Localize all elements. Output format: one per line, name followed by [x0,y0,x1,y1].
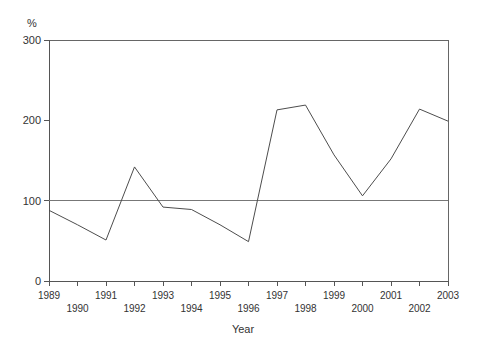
x-tick-label-1997: 1997 [266,290,289,301]
y-tick-label-200: 200 [23,114,41,126]
x-tick-label-2002: 2002 [408,303,431,314]
x-tick-label-1995: 1995 [209,290,232,301]
x-tick-label-1996: 1996 [237,303,260,314]
y-tick-label-100: 100 [23,195,41,207]
x-tick-label-2003: 2003 [437,290,460,301]
x-tick-label-1999: 1999 [323,290,346,301]
x-tick-label-1992: 1992 [123,303,146,314]
data-series-line [49,105,448,242]
x-tick-label-1993: 1993 [152,290,175,301]
x-tick-label-2000: 2000 [351,303,374,314]
x-tick-label-1998: 1998 [294,303,317,314]
x-tick-label-1994: 1994 [180,303,203,314]
line-chart: 0 100 200 300 % 1989 19 [0,0,478,350]
y-tick-label-300: 300 [23,34,41,46]
x-axis-tick-labels-upper: 1989 1991 1993 1995 1997 1999 2001 2003 [38,290,460,301]
x-tick-label-2001: 2001 [380,290,403,301]
x-tick-label-1989: 1989 [38,290,61,301]
x-axis-ticks [49,281,448,286]
x-tick-label-1990: 1990 [66,303,89,314]
y-axis-unit-label: % [27,17,37,29]
x-tick-label-1991: 1991 [95,290,118,301]
y-tick-label-0: 0 [35,275,41,287]
x-axis-tick-labels-lower: 1990 1992 1994 1996 1998 2000 2002 [66,303,431,314]
y-axis-tick-labels: 0 100 200 300 [23,34,41,287]
chart-container: 0 100 200 300 % 1989 19 [0,0,478,350]
x-axis-title: Year [232,323,255,335]
y-axis-ticks [44,40,49,281]
